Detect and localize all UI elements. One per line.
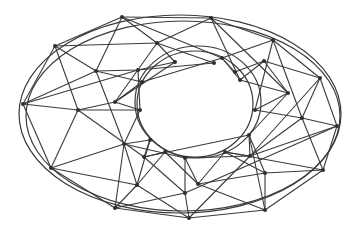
graph-edge (122, 17, 211, 18)
graph-edge (302, 118, 323, 170)
graph-edge (249, 93, 288, 135)
graph-node (321, 168, 325, 172)
graph-node (53, 44, 57, 48)
graph-edge (122, 17, 157, 43)
graph-edge (264, 61, 320, 78)
graph-node (49, 166, 53, 170)
graph-edge (51, 144, 124, 168)
graph-edge (115, 102, 140, 110)
graph-node (238, 78, 242, 82)
graph-node (248, 154, 252, 158)
graph-node (300, 116, 304, 120)
graph-node (76, 108, 80, 112)
graph-edge (264, 61, 288, 93)
graph-edge (115, 144, 124, 208)
graph-node (120, 15, 124, 19)
graph-edge (211, 18, 288, 93)
graph-node (187, 216, 191, 220)
graph-node (253, 108, 257, 112)
graph-node (140, 80, 144, 84)
graph-node (135, 183, 139, 187)
graph-node (21, 102, 25, 106)
graph-edge (78, 110, 144, 157)
graph-edge (265, 170, 323, 210)
graph-edge (55, 43, 157, 46)
graph-edge (189, 210, 265, 218)
graph-edge (124, 110, 140, 144)
graph-node (233, 70, 237, 74)
graph-node (271, 38, 275, 42)
graph-node (173, 60, 177, 64)
graph-node (113, 206, 117, 210)
graph-edge (302, 118, 337, 126)
graph-node (262, 59, 266, 63)
graph-edge (185, 158, 198, 184)
graph-node (247, 133, 251, 137)
graph-edge (144, 157, 185, 193)
graph-edge (23, 70, 138, 104)
graph-node (335, 124, 339, 128)
graph-edge (23, 71, 96, 104)
graph-edge (302, 78, 320, 118)
graph-node (136, 68, 140, 72)
graph-edge (265, 170, 323, 173)
graph-edges (23, 17, 337, 218)
graph-edge (323, 126, 337, 170)
graph-node (183, 156, 187, 160)
graph-edge (250, 118, 302, 156)
graph-edge (96, 70, 138, 71)
graph-node (148, 138, 152, 142)
graph-node (318, 76, 322, 80)
graph-edge (222, 40, 273, 58)
ring-outlines (19, 15, 341, 213)
graph-node (155, 41, 159, 45)
graph-edge (124, 140, 150, 144)
graph-edge (23, 46, 55, 104)
graph-edge (255, 110, 302, 118)
graph-node (142, 155, 146, 159)
graph-edge (23, 104, 78, 110)
graph-edge (115, 193, 185, 208)
graph-node (196, 182, 200, 186)
graph-edge (124, 144, 185, 158)
graph-node (212, 61, 216, 65)
graph-node (94, 69, 98, 73)
graph-edge (55, 46, 96, 71)
graph-edge (185, 126, 337, 193)
network-graph (0, 0, 358, 233)
graph-node (122, 142, 126, 146)
graph-node (263, 171, 267, 175)
graph-edge (122, 17, 222, 58)
graph-edge (55, 46, 78, 110)
graph-node (263, 208, 267, 212)
graph-node (183, 191, 187, 195)
graph-node (223, 150, 227, 154)
graph-node (113, 100, 117, 104)
graph-edge (185, 193, 189, 218)
graph-node (286, 91, 290, 95)
graph-node (220, 56, 224, 60)
graph-edge (255, 93, 288, 110)
graph-edge (23, 104, 51, 168)
graph-node (163, 150, 167, 154)
graph-node (209, 16, 213, 20)
graph-node (138, 108, 142, 112)
graph-edge (51, 110, 78, 168)
